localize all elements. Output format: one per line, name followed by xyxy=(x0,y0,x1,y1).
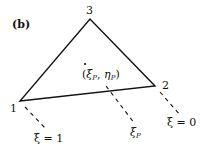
vertex-label-3: 3 xyxy=(86,4,93,17)
triangle-diagram: (b) 3 2 1 (ξP, ηP) ξP ξ = 0 ξ = 1 xyxy=(0,0,205,150)
vertex-label-1: 1 xyxy=(10,102,17,115)
point-p-label: (ξP, ηP) xyxy=(82,68,120,82)
point-p-marker xyxy=(84,63,86,65)
xi-eq-1-label: ξ = 1 xyxy=(34,132,63,145)
xi-eq-0-label: ξ = 0 xyxy=(167,116,196,129)
panel-label: (b) xyxy=(12,18,30,31)
triangle-element xyxy=(20,19,155,101)
vertex-label-2: 2 xyxy=(162,79,169,92)
dashed-line-xi-0 xyxy=(160,92,181,116)
dashed-line-xi-p xyxy=(106,86,135,124)
dashed-line-xi-1 xyxy=(25,107,46,129)
xi-p-label: ξP xyxy=(130,126,141,140)
